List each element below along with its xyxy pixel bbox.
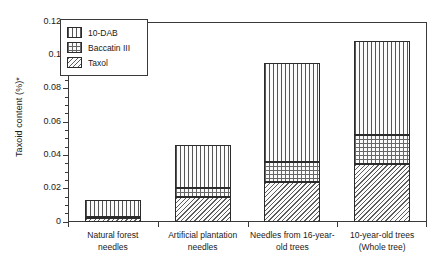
x-axis-category-label: Natural forestneedles (68, 230, 158, 253)
x-axis-category-label: 10-year-old trees(Whole tree) (337, 230, 427, 253)
x-axis-category-labels: Natural forestneedlesArtificial plantati… (68, 230, 427, 272)
bar-segment-10-dab (354, 41, 410, 135)
legend-swatch-10-dab-icon (67, 27, 82, 38)
x-axis-category-label: Artificial plantationneedles (158, 230, 248, 253)
bar-segment-baccatin-iii (264, 162, 320, 182)
y-axis-tick-label: 0.02 (43, 182, 61, 192)
category-label-line: old trees (248, 242, 338, 254)
legend-label-baccatin-iii: Baccatin III (88, 43, 130, 53)
category-label-line: Artificial plantation (158, 230, 248, 242)
bar-stack (264, 63, 320, 222)
category-label-line: needles (158, 242, 248, 254)
x-axis-tick (337, 222, 338, 227)
bar-segment-baccatin-iii (175, 188, 231, 197)
y-axis-title: Taxoid content (%)* (14, 32, 24, 202)
x-axis-tick (158, 222, 159, 227)
legend-label-taxol: Taxol (88, 58, 108, 68)
bar-segment-10-dab (85, 200, 141, 217)
x-axis-tick (68, 222, 69, 227)
category-label-line: Needles from 16-year- (248, 230, 338, 242)
x-axis-tick (426, 222, 427, 227)
y-axis-tick-label: 0 (56, 216, 61, 226)
bar-stack (354, 41, 410, 222)
bar-stack (85, 200, 141, 222)
legend-item-10-dab: 10-DAB (67, 25, 142, 40)
bar-segment-taxol (175, 197, 231, 222)
x-axis-tick (248, 222, 249, 227)
category-label-line: needles (68, 242, 158, 254)
category-label-line: 10-year-old trees (337, 230, 427, 242)
legend-label-10-dab: 10-DAB (88, 28, 118, 38)
bar-segment-taxol (264, 182, 320, 222)
y-axis-tick-label: 0.06 (43, 116, 61, 126)
chart-legend: 10-DAB Baccatin III Taxol (60, 19, 148, 76)
y-axis-tick-label: 0.04 (43, 149, 61, 159)
bar-stack (175, 145, 231, 222)
category-label-line: Natural forest (68, 230, 158, 242)
taxoid-content-stacked-bar-chart: Taxoid content (%)* 00.020.040.060.080.1… (0, 0, 445, 272)
x-axis-category-label: Needles from 16-year-old trees (248, 230, 338, 253)
bar-segment-10-dab (264, 63, 320, 162)
bar-segment-baccatin-iii (354, 135, 410, 165)
category-label-line: (Whole tree) (337, 242, 427, 254)
y-axis-tick-label: 0.12 (43, 16, 61, 26)
bar-segment-taxol (354, 164, 410, 222)
bar-segment-taxol (85, 218, 141, 222)
legend-item-baccatin-iii: Baccatin III (67, 40, 142, 55)
y-axis-tick-label: 0.08 (43, 82, 61, 92)
bar-segment-10-dab (175, 145, 231, 188)
legend-swatch-baccatin-iii-icon (67, 42, 82, 53)
legend-swatch-taxol-icon (67, 57, 82, 68)
legend-item-taxol: Taxol (67, 55, 142, 70)
